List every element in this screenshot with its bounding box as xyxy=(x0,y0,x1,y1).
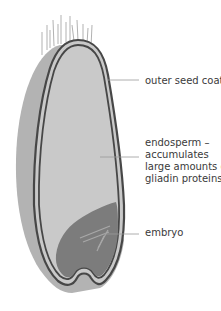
label-endosperm-line-4: gliadin proteins xyxy=(145,173,221,185)
label-endosperm-line-1: endosperm – xyxy=(145,137,221,149)
label-endosperm-line-2: accumulates xyxy=(145,149,221,161)
label-outer-seed-coat: outer seed coat xyxy=(145,75,221,87)
label-endosperm: endosperm – accumulates large amounts of… xyxy=(145,137,221,185)
label-endosperm-line-3: large amounts of xyxy=(145,161,221,173)
label-embryo: embryo xyxy=(145,227,183,239)
